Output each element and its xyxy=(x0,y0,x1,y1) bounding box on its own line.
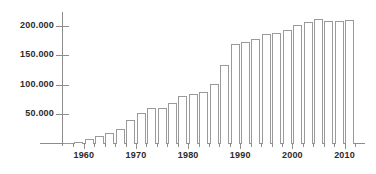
x-axis-tick-minor xyxy=(355,143,356,147)
x-axis-tick-minor xyxy=(199,143,200,147)
x-axis-tick-minor xyxy=(209,143,210,147)
x-axis-tick-major xyxy=(84,143,85,149)
bar xyxy=(272,33,281,144)
bar xyxy=(199,92,208,144)
bar xyxy=(335,21,344,145)
x-axis-tick-minor xyxy=(94,143,95,147)
x-axis-tick-label: 2000 xyxy=(282,150,303,160)
x-axis-tick-minor xyxy=(303,143,304,147)
x-axis-tick-minor xyxy=(73,143,74,147)
x-axis-tick-minor xyxy=(282,143,283,147)
bar xyxy=(74,142,83,144)
bar xyxy=(210,84,219,144)
bar xyxy=(345,20,354,144)
bar xyxy=(231,44,240,144)
bar xyxy=(220,65,229,144)
bar xyxy=(158,108,167,144)
bar xyxy=(64,143,73,144)
x-axis-tick-minor xyxy=(219,143,220,147)
bar xyxy=(105,133,114,144)
bar xyxy=(95,136,104,144)
bar xyxy=(314,19,323,144)
bar xyxy=(137,113,146,144)
x-axis-tick-minor xyxy=(126,143,127,147)
bar xyxy=(283,30,292,144)
x-axis-tick-minor xyxy=(230,143,231,147)
bar xyxy=(85,139,94,144)
x-axis-tick-major xyxy=(188,143,189,149)
plot-area xyxy=(63,14,355,144)
bar xyxy=(324,21,333,144)
bar xyxy=(241,42,250,144)
bars-layer xyxy=(63,14,355,144)
x-axis-tick-minor xyxy=(261,143,262,147)
bar xyxy=(126,120,135,144)
x-axis-tick-major xyxy=(136,143,137,149)
x-axis-tick-minor xyxy=(146,143,147,147)
y-axis-tick-label: 50.000 xyxy=(6,108,54,118)
bar xyxy=(168,103,177,144)
x-axis-tick-label: 1980 xyxy=(178,150,199,160)
x-axis-tick-label: 1990 xyxy=(230,150,251,160)
y-axis-tick-label: 100.000 xyxy=(6,79,54,89)
x-axis-tick-minor xyxy=(115,143,116,147)
bar xyxy=(189,94,198,144)
y-axis-labels: 50.000100.000150.000200.000 xyxy=(0,0,54,174)
bar xyxy=(116,129,125,144)
y-axis-tick-label: 200.000 xyxy=(6,20,54,30)
x-axis-tick-minor xyxy=(251,143,252,147)
x-axis-tick-major xyxy=(345,143,346,149)
x-axis-tick-major xyxy=(292,143,293,149)
x-axis-tick-minor xyxy=(178,143,179,147)
x-axis-tick-minor xyxy=(167,143,168,147)
x-axis-tick-major xyxy=(240,143,241,149)
x-axis-tick-minor xyxy=(157,143,158,147)
bar-chart-figure: 50.000100.000150.000200.000 196019701980… xyxy=(0,0,376,174)
bar xyxy=(304,22,313,144)
x-axis-tick-label: 1960 xyxy=(73,150,94,160)
y-axis-tick-label: 150.000 xyxy=(6,49,54,59)
x-axis-tick-minor xyxy=(105,143,106,147)
x-axis-tick-label: 2010 xyxy=(334,150,355,160)
x-axis-tick-minor xyxy=(313,143,314,147)
bar xyxy=(178,96,187,144)
x-axis-tick-minor xyxy=(324,143,325,147)
bar xyxy=(262,34,271,145)
bar xyxy=(293,25,302,144)
x-axis-tick-label: 1970 xyxy=(126,150,147,160)
x-axis-tick-minor xyxy=(272,143,273,147)
bar xyxy=(147,108,156,144)
bar xyxy=(251,39,260,144)
x-axis-tick-minor xyxy=(334,143,335,147)
